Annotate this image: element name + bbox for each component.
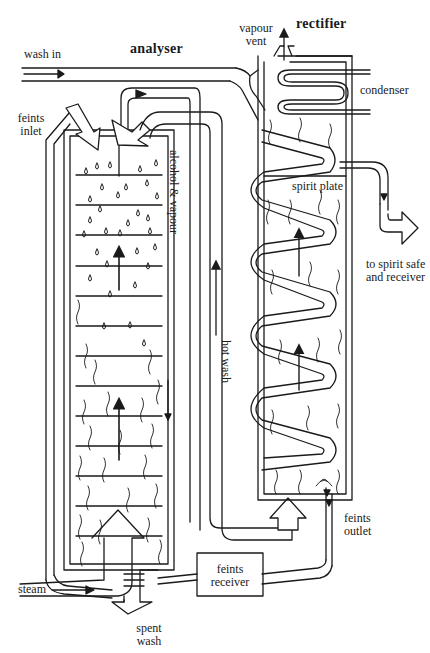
wash-droplets (83, 160, 159, 346)
feints-outlet-label: feints outlet (344, 512, 371, 538)
steam-label: steam (18, 583, 46, 596)
hot-wash-return-pipe (112, 88, 200, 530)
feints-pipe-inner (54, 124, 70, 575)
analyser-bottom (20, 510, 158, 614)
hot-wash-label: hot wash (219, 340, 232, 383)
analyser-column (64, 130, 174, 570)
vapour-vent-label: vapour vent (234, 22, 278, 48)
wash-entry-arrow (112, 120, 150, 146)
wash-in-label: wash in (24, 48, 61, 61)
analyser-title: analyser (130, 42, 183, 55)
alcohol-vapour-label: alcohol & vapour (167, 150, 180, 234)
still-diagram (0, 0, 430, 653)
feints-inlet-label: feints inlet (16, 112, 46, 138)
rectifier-column (251, 30, 370, 500)
feints-pipe-outer (46, 112, 80, 580)
feints-receiver-label: feints receiver (200, 563, 260, 589)
condenser-coil (278, 70, 370, 114)
spirit-plate-label: spirit plate (292, 180, 343, 193)
rectifier-title: rectifier (296, 17, 347, 30)
condenser-label: condenser (360, 84, 409, 97)
to-spirit-safe-label: to spirit safe and receiver (366, 258, 425, 284)
spent-wash-label: spent wash (132, 622, 166, 648)
vapour-entry-arrow (270, 498, 306, 530)
feints-outlet-pipe (262, 488, 332, 584)
feints-inlet-arrow (66, 104, 100, 150)
